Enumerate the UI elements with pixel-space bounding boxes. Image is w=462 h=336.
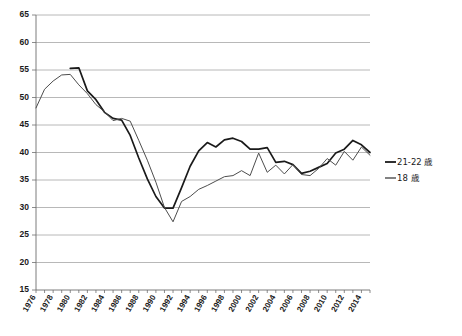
x-tick-label-2004: 2004 xyxy=(261,293,278,313)
x-tick-label-2008: 2008 xyxy=(295,293,312,313)
x-tick-label-1986: 1986 xyxy=(107,293,124,313)
x-tick-label-1990: 1990 xyxy=(141,293,158,313)
x-tick-label-2014: 2014 xyxy=(346,293,363,313)
x-tick-label-2002: 2002 xyxy=(244,293,261,313)
x-tick-label-2006: 2006 xyxy=(278,293,295,313)
y-tick-label-50: 50 xyxy=(20,92,30,102)
data-series-group xyxy=(36,68,370,222)
y-tick-label-15: 15 xyxy=(20,284,30,294)
x-tick-label-1998: 1998 xyxy=(209,293,226,313)
y-tick-label-30: 30 xyxy=(20,202,30,212)
chart-canvas: 1520253035404550556065 19761978198019821… xyxy=(0,0,462,336)
y-tick-label-55: 55 xyxy=(20,64,30,74)
chart-legend: 21-22 歳18 歳 xyxy=(385,157,433,183)
series-line-0 xyxy=(70,68,370,208)
y-tick-label-25: 25 xyxy=(20,229,30,239)
x-tick-label-2010: 2010 xyxy=(312,293,329,313)
grid-lines xyxy=(36,15,370,263)
y-tick-label-60: 60 xyxy=(20,37,30,47)
legend-label-1: 18 歳 xyxy=(397,173,420,183)
series-line-1 xyxy=(36,74,370,221)
line-chart: 1520253035404550556065 19761978198019821… xyxy=(0,0,462,336)
y-tick-label-65: 65 xyxy=(20,9,30,19)
x-tick-label-1992: 1992 xyxy=(158,293,175,313)
x-tick-label-2000: 2000 xyxy=(227,293,244,313)
y-axis-tick-labels: 1520253035404550556065 xyxy=(20,9,36,294)
y-tick-label-45: 45 xyxy=(20,119,30,129)
x-tick-label-1980: 1980 xyxy=(55,293,72,313)
y-tick-label-35: 35 xyxy=(20,174,30,184)
x-tick-label-1994: 1994 xyxy=(175,293,192,313)
x-tick-label-1988: 1988 xyxy=(124,293,141,313)
x-tick-label-1982: 1982 xyxy=(72,293,89,313)
x-tick-label-1996: 1996 xyxy=(192,293,209,313)
x-tick-label-2012: 2012 xyxy=(329,293,346,313)
x-tick-label-1978: 1978 xyxy=(38,293,55,313)
x-tick-label-1976: 1976 xyxy=(21,293,38,313)
x-axis-tick-labels: 1976197819801982198419861988199019921994… xyxy=(21,290,370,313)
x-tick-label-1984: 1984 xyxy=(90,293,107,313)
y-tick-label-20: 20 xyxy=(20,257,30,267)
legend-label-0: 21-22 歳 xyxy=(397,157,433,167)
y-tick-label-40: 40 xyxy=(20,147,30,157)
